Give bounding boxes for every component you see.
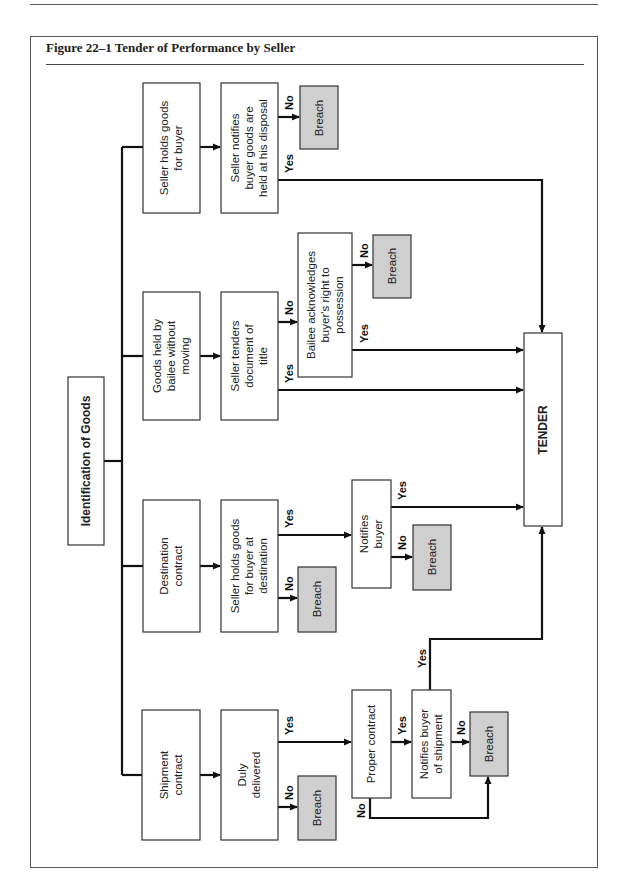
svg-text:Seller holds goods: Seller holds goods xyxy=(229,518,241,613)
svg-text:destination: destination xyxy=(257,538,269,594)
label-yes: Yes xyxy=(283,364,295,383)
svg-text:bailee without: bailee without xyxy=(165,320,177,391)
svg-text:Proper contract: Proper contract xyxy=(365,704,377,783)
svg-text:buyer: buyer xyxy=(372,519,384,548)
label-no: No xyxy=(283,95,295,110)
node-shipment-contract: Shipment contract xyxy=(142,710,200,840)
node-seller-holds-at-destination: Seller holds goods for buyer at destinat… xyxy=(221,500,278,632)
svg-text:Breach: Breach xyxy=(426,539,438,575)
label-yes: Yes xyxy=(396,481,408,500)
label-no: No xyxy=(355,803,367,818)
node-identification-of-goods: Identification of Goods xyxy=(68,377,104,545)
svg-text:Breach: Breach xyxy=(313,100,325,136)
svg-text:title: title xyxy=(257,347,269,365)
label-yes: Yes xyxy=(283,154,295,173)
label-no: No xyxy=(283,576,295,591)
label-no: No xyxy=(396,535,408,550)
svg-text:moving: moving xyxy=(179,337,191,374)
svg-text:Breach: Breach xyxy=(386,248,398,284)
node-notifies-buyer: Notifies buyer xyxy=(352,480,391,588)
node-tender: TENDER xyxy=(524,333,562,526)
svg-text:Seller holds goods: Seller holds goods xyxy=(158,100,170,195)
svg-text:Breach: Breach xyxy=(311,581,323,617)
label-no: No xyxy=(283,785,295,800)
svg-text:possession: possession xyxy=(333,276,345,334)
label-yes: Yes xyxy=(283,716,295,735)
node-breach: Breach xyxy=(298,776,336,840)
label-yes: Yes xyxy=(283,509,295,528)
svg-text:buyer's right to: buyer's right to xyxy=(319,267,331,342)
svg-text:for buyer: for buyer xyxy=(172,125,184,171)
node-breach: Breach xyxy=(373,235,411,298)
node-breach: Breach xyxy=(300,86,338,149)
svg-text:Shipment: Shipment xyxy=(158,750,170,799)
node-duly-delivered: Duly delivered xyxy=(221,710,278,840)
svg-text:Notifies buyer: Notifies buyer xyxy=(418,709,430,779)
svg-text:delivered: delivered xyxy=(250,752,262,799)
node-breach: Breach xyxy=(298,567,336,632)
svg-text:of shipment: of shipment xyxy=(432,713,444,773)
node-breach: Breach xyxy=(413,525,451,590)
label-yes: Yes xyxy=(396,716,408,735)
node-bailee-acknowledges: Bailee acknowledges buyer's right to pos… xyxy=(298,233,352,377)
svg-text:Bailee acknowledges: Bailee acknowledges xyxy=(305,251,317,359)
node-proper-contract: Proper contract xyxy=(352,690,391,798)
node-seller-tenders-document: Seller tenders document of title xyxy=(221,292,278,420)
svg-text:Goods held by: Goods held by xyxy=(151,319,163,393)
svg-text:Notifies: Notifies xyxy=(358,515,370,554)
label-yes: Yes xyxy=(358,324,370,343)
svg-text:held at his disposal: held at his disposal xyxy=(257,99,269,197)
svg-text:Seller tenders: Seller tenders xyxy=(229,320,241,391)
flowchart: Identification of Goods Seller holds goo… xyxy=(0,0,629,894)
label-no: No xyxy=(283,300,295,315)
node-breach: Breach xyxy=(470,712,508,776)
svg-text:document of: document of xyxy=(243,324,255,388)
label-no: No xyxy=(455,720,467,735)
node-goods-held-by-bailee: Goods held by bailee without moving xyxy=(143,292,200,420)
node-destination-contract: Destination contract xyxy=(143,500,200,632)
svg-text:Breach: Breach xyxy=(483,726,495,762)
node-seller-holds-goods: Seller holds goods for buyer xyxy=(143,83,200,213)
label-no: No xyxy=(358,243,370,258)
svg-text:contract: contract xyxy=(172,545,184,587)
node-seller-notifies: Seller notifies buyer goods are held at … xyxy=(221,83,278,213)
svg-text:contract: contract xyxy=(172,754,184,796)
node-notifies-buyer-of-shipment: Notifies buyer of shipment xyxy=(412,690,451,798)
svg-text:Duly: Duly xyxy=(236,763,248,786)
svg-text:Destination: Destination xyxy=(158,537,170,595)
svg-text:Seller notifies: Seller notifies xyxy=(229,113,241,182)
node-label: Identification of Goods xyxy=(79,395,93,526)
label-yes: Yes xyxy=(416,649,428,668)
svg-text:buyer goods are: buyer goods are xyxy=(243,106,255,189)
svg-text:TENDER: TENDER xyxy=(536,405,550,455)
svg-text:Breach: Breach xyxy=(311,790,323,826)
svg-text:for buyer at: for buyer at xyxy=(243,536,255,595)
